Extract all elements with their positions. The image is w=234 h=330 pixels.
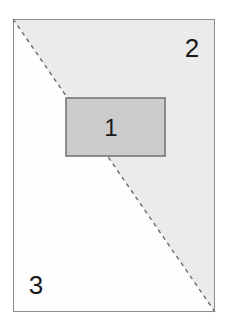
inner-rectangle-label: 1 [104, 114, 117, 141]
figure-svg: 1 2 3 [0, 0, 234, 330]
figure-canvas: 1 2 3 [0, 0, 234, 330]
region-3-label: 3 [29, 270, 43, 300]
region-2-label: 2 [185, 33, 199, 63]
